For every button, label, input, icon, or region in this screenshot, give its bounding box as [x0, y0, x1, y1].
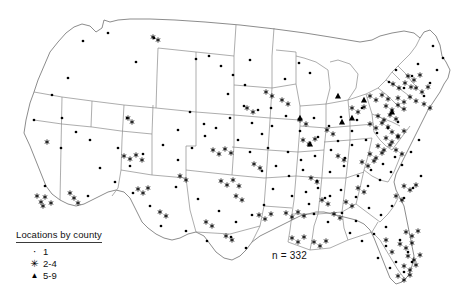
legend-title: Locations by county [16, 229, 102, 243]
legend-label-2: 2-4 [41, 258, 57, 269]
legend-label-3: 5-9 [41, 270, 57, 281]
legend-label-1: 1 [41, 246, 48, 257]
asterisk-marker-icon: ✳ [28, 258, 41, 269]
legend-item-3: ▲ 5-9 [28, 270, 128, 281]
map-legend: Locations by county · 1 ✳ 2-4 ▲ 5-9 [16, 224, 128, 281]
legend-item-1: · 1 [28, 246, 128, 257]
figure-container: Locations by county · 1 ✳ 2-4 ▲ 5-9 n = … [0, 0, 466, 304]
legend-items: · 1 ✳ 2-4 ▲ 5-9 [16, 246, 128, 281]
legend-item-2: ✳ 2-4 [28, 258, 128, 269]
triangle-marker-icon: ▲ [28, 270, 41, 281]
sample-size-label: n = 332 [272, 250, 307, 261]
dot-marker-icon: · [28, 246, 41, 257]
